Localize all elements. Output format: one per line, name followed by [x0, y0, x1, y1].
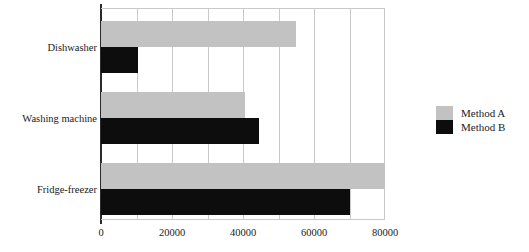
legend-label-method-b: Method B — [461, 121, 505, 133]
bar-dishwasher-method-a — [101, 21, 296, 47]
bar-washing-machine-method-b — [101, 118, 259, 144]
xtick-label-80000: 80000 — [372, 228, 398, 239]
plot-area — [101, 8, 385, 220]
bar-fridge-freezer-method-a — [101, 163, 385, 189]
legend: Method A Method B — [436, 106, 526, 134]
category-label-dishwasher: Dishwasher — [0, 43, 97, 54]
bar-fridge-freezer-method-b — [101, 189, 350, 215]
legend-label-method-a: Method A — [461, 107, 505, 119]
category-label-fridge-freezer: Fridge-freezer — [0, 185, 97, 196]
xtick-label-60000: 60000 — [301, 228, 327, 239]
legend-swatch-method-b — [436, 120, 453, 134]
xtick-label-40000: 40000 — [230, 228, 256, 239]
legend-item-method-b: Method B — [436, 120, 526, 134]
category-label-washing-machine: Washing machine — [0, 114, 97, 125]
bar-chart: Dishwasher Washing machine Fridge-freeze… — [0, 0, 529, 252]
legend-swatch-method-a — [436, 106, 453, 120]
xtick-label-0: 0 — [98, 228, 103, 239]
xtick-label-20000: 20000 — [159, 228, 185, 239]
legend-item-method-a: Method A — [436, 106, 526, 120]
bar-washing-machine-method-a — [101, 92, 245, 118]
bar-dishwasher-method-b — [101, 47, 138, 73]
